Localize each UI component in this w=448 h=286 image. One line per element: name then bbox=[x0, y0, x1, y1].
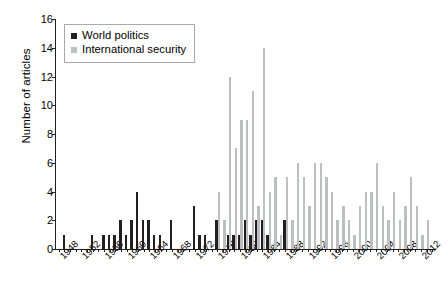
bar-world-politics-1961 bbox=[130, 220, 132, 249]
bar-international-security-1988 bbox=[286, 177, 288, 249]
bar-international-security-1977 bbox=[223, 220, 225, 249]
legend-label-world-politics: World politics bbox=[82, 30, 149, 41]
bar-international-security-1978 bbox=[229, 77, 231, 250]
x-tick-mark bbox=[364, 249, 365, 252]
y-tick-mark bbox=[52, 105, 56, 106]
legend-swatch-international-security-icon bbox=[71, 47, 77, 53]
bar-world-politics-1958 bbox=[113, 235, 115, 249]
bar-international-security-2012 bbox=[421, 235, 423, 249]
x-tick-mark bbox=[93, 249, 94, 252]
bar-international-security-1992 bbox=[308, 206, 310, 249]
y-tick-mark bbox=[52, 48, 56, 49]
bar-international-security-2004 bbox=[376, 163, 378, 249]
bar-international-security-1986 bbox=[274, 177, 276, 249]
y-tick-mark bbox=[52, 134, 56, 135]
x-tick-mark bbox=[432, 249, 433, 252]
y-tick-mark bbox=[52, 220, 56, 221]
x-tick-mark bbox=[347, 249, 348, 252]
x-tick-mark bbox=[296, 249, 297, 252]
bar-international-security-2002 bbox=[365, 192, 367, 250]
x-tick-mark bbox=[279, 249, 280, 252]
bar-world-politics-1963 bbox=[142, 220, 144, 249]
x-tick-mark bbox=[268, 249, 269, 252]
bar-international-security-1993 bbox=[314, 163, 316, 249]
bar-world-politics-1973 bbox=[198, 235, 200, 249]
x-tick-mark bbox=[251, 249, 252, 252]
bar-world-politics-1957 bbox=[108, 235, 110, 249]
bar-international-security-1998 bbox=[342, 206, 344, 249]
bar-international-security-1982 bbox=[252, 91, 254, 249]
bar-international-security-1994 bbox=[320, 163, 322, 249]
x-tick-mark bbox=[319, 249, 320, 252]
bar-international-security-1985 bbox=[269, 192, 271, 250]
y-tick-mark bbox=[52, 163, 56, 164]
bar-international-security-2007 bbox=[393, 192, 395, 250]
x-tick-mark bbox=[410, 249, 411, 252]
x-tick-mark bbox=[404, 249, 405, 252]
y-axis-title: Number of articles bbox=[20, 6, 32, 186]
x-tick-mark bbox=[206, 249, 207, 252]
bar-world-politics-1960 bbox=[125, 235, 127, 249]
x-tick-mark bbox=[246, 249, 247, 252]
bar-international-security-2000 bbox=[353, 235, 355, 249]
x-tick-mark bbox=[291, 249, 292, 252]
chart-legend: World politics International security bbox=[64, 24, 195, 63]
x-tick-mark bbox=[427, 249, 428, 252]
bar-world-politics-1965 bbox=[153, 235, 155, 249]
x-tick-mark bbox=[115, 249, 116, 252]
x-tick-mark bbox=[70, 249, 71, 252]
x-tick-mark bbox=[336, 249, 337, 252]
x-tick-mark bbox=[342, 249, 343, 252]
bar-world-politics-1962 bbox=[136, 192, 138, 250]
x-tick-mark bbox=[370, 249, 371, 252]
bar-international-security-1997 bbox=[336, 220, 338, 249]
bar-world-politics-1966 bbox=[159, 235, 161, 249]
x-tick-mark bbox=[212, 249, 213, 252]
x-tick-mark bbox=[183, 249, 184, 252]
x-tick-mark bbox=[223, 249, 224, 252]
bar-international-security-1990 bbox=[297, 163, 299, 249]
bar-international-security-1995 bbox=[325, 177, 327, 249]
chart-figure: Number of articles 0246810121416 1948195… bbox=[0, 0, 448, 286]
x-tick-mark bbox=[415, 249, 416, 252]
bar-international-security-2009 bbox=[404, 206, 406, 249]
x-tick-mark bbox=[387, 249, 388, 252]
x-tick-mark bbox=[359, 249, 360, 252]
x-tick-mark bbox=[110, 249, 111, 252]
bar-international-security-1989 bbox=[291, 220, 293, 249]
x-tick-mark bbox=[138, 249, 139, 252]
bar-world-politics-1972 bbox=[193, 206, 195, 249]
x-tick-mark bbox=[98, 249, 99, 252]
y-tick-mark bbox=[52, 249, 56, 250]
x-tick-mark bbox=[76, 249, 77, 252]
bar-international-security-2006 bbox=[387, 220, 389, 249]
legend-swatch-world-politics-icon bbox=[71, 33, 77, 39]
bar-international-security-1996 bbox=[331, 192, 333, 250]
x-tick-mark bbox=[229, 249, 230, 252]
legend-label-international-security: International security bbox=[82, 44, 186, 55]
bar-international-security-1987 bbox=[280, 235, 282, 249]
x-tick-mark bbox=[274, 249, 275, 252]
bar-world-politics-1968 bbox=[170, 220, 172, 249]
x-tick-mark bbox=[257, 249, 258, 252]
bar-international-security-2011 bbox=[416, 206, 418, 249]
x-tick-mark bbox=[189, 249, 190, 252]
bar-international-security-2013 bbox=[427, 220, 429, 249]
x-tick-mark bbox=[132, 249, 133, 252]
bar-international-security-1979 bbox=[235, 148, 237, 249]
bar-international-security-1983 bbox=[257, 206, 259, 249]
bar-international-security-2003 bbox=[370, 192, 372, 250]
bar-international-security-1980 bbox=[240, 120, 242, 249]
bar-international-security-2001 bbox=[359, 206, 361, 249]
x-tick-mark bbox=[121, 249, 122, 252]
x-tick-mark bbox=[166, 249, 167, 252]
bar-world-politics-1974 bbox=[204, 235, 206, 249]
x-tick-mark bbox=[87, 249, 88, 252]
bar-world-politics-1954 bbox=[91, 235, 93, 249]
x-tick-mark bbox=[234, 249, 235, 252]
x-tick-mark bbox=[393, 249, 394, 252]
bar-international-security-2008 bbox=[399, 220, 401, 249]
x-tick-mark bbox=[144, 249, 145, 252]
x-tick-mark bbox=[155, 249, 156, 252]
x-tick-mark bbox=[325, 249, 326, 252]
